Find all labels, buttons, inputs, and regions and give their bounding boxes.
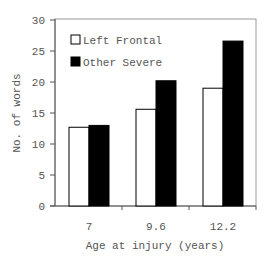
y-ticks: 051015202530 (32, 15, 55, 213)
bar-chart: 051015202530 7 9.6 12.2 Age at injury (y… (0, 0, 270, 260)
legend-swatch-left-frontal (71, 35, 80, 44)
y-tick-label: 25 (32, 46, 45, 58)
legend: Left Frontal Other Severe (71, 35, 162, 69)
x-tick-label: 9.6 (146, 221, 166, 233)
bar-other-severe (89, 125, 109, 206)
bar-left-frontal (203, 88, 223, 206)
bar-other-severe (156, 81, 176, 206)
x-axis-label: Age at injury (years) (86, 240, 225, 252)
y-tick-label: 0 (38, 201, 45, 213)
legend-label-other-severe: Other Severe (83, 57, 162, 69)
bar-left-frontal (69, 127, 89, 206)
bar-other-severe (223, 41, 243, 206)
bar-left-frontal (136, 109, 156, 206)
y-tick-label: 20 (32, 77, 45, 89)
x-tick-label: 7 (86, 221, 93, 233)
y-tick-label: 10 (32, 139, 45, 151)
x-tick-label: 12.2 (210, 221, 236, 233)
y-tick-label: 15 (32, 108, 45, 120)
legend-swatch-other-severe (71, 57, 80, 66)
legend-label-left-frontal: Left Frontal (83, 35, 162, 47)
y-tick-label: 5 (38, 170, 45, 182)
y-axis-label: No. of words (11, 73, 23, 152)
y-tick-label: 30 (32, 15, 45, 27)
